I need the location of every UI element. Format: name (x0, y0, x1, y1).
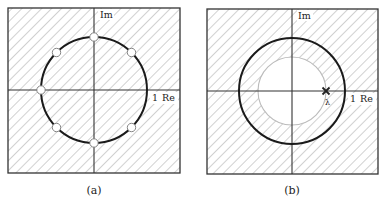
re-label: Re (360, 93, 373, 104)
im-label: Im (100, 9, 113, 20)
caption-b: (b) (284, 184, 300, 197)
panel-a: Im 1 Re (a) (8, 8, 180, 197)
marker-225 (52, 123, 60, 131)
unit-label: 1 (152, 92, 158, 103)
marker-135 (52, 48, 60, 56)
marker-270 (90, 139, 98, 147)
re-label: Re (162, 92, 175, 103)
lambda-label: λ (325, 98, 330, 107)
caption-a: (a) (86, 184, 101, 197)
im-label: Im (298, 10, 311, 21)
panel-b: λ Im 1 Re (b) (207, 9, 378, 197)
complex-plane-figure: Im 1 Re (a) λ Im 1 Re (b) (0, 0, 384, 203)
marker-180 (37, 86, 45, 94)
marker-90 (90, 33, 98, 41)
unit-label: 1 (350, 93, 356, 104)
marker-45 (127, 48, 135, 56)
marker-315 (127, 123, 135, 131)
